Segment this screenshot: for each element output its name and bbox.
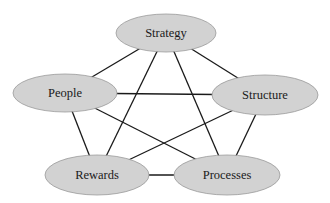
node-label: Strategy — [145, 26, 187, 40]
node-label: People — [48, 86, 82, 100]
node-processes: Processes — [174, 155, 280, 195]
node-structure: Structure — [212, 75, 318, 115]
node-strategy: Strategy — [116, 14, 216, 52]
node-rewards: Rewards — [45, 155, 149, 195]
nodes: StrategyPeopleStructureRewardsProcesses — [13, 14, 318, 195]
node-label: Structure — [242, 88, 288, 102]
node-people: People — [13, 74, 117, 112]
node-label: Processes — [203, 168, 252, 182]
star-model-diagram: StrategyPeopleStructureRewardsProcesses — [0, 0, 330, 203]
node-label: Rewards — [75, 168, 119, 182]
